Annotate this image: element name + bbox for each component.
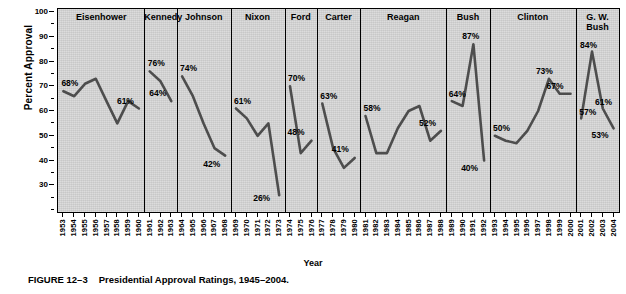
figure-caption-text: Presidential Approval Ratings, 1945–2004…	[99, 274, 289, 285]
x-tick-label: 1955	[80, 219, 89, 237]
figure-container: Percent Approval 10090807060504030 Eisen…	[0, 0, 626, 294]
panel-label-nixon: Nixon	[231, 12, 285, 22]
x-tick-label: 1996	[522, 219, 531, 237]
x-tick-label: 1995	[512, 219, 521, 237]
panel-divider	[177, 9, 178, 212]
x-tick-mark	[526, 213, 527, 217]
y-minor-tick	[51, 98, 54, 99]
panel-label-ford: Ford	[285, 12, 317, 22]
x-tick-label: 1971	[253, 219, 262, 237]
x-tick-label: 1980	[350, 219, 359, 237]
y-minor-tick	[51, 73, 54, 74]
x-tick-mark	[580, 213, 581, 217]
y-axis-ticks: 10090807060504030	[18, 0, 48, 220]
x-tick-label: 1963	[166, 219, 175, 237]
x-tick-label: 1964	[177, 219, 186, 237]
data-value-label: 84%	[580, 40, 597, 50]
x-tick-label: 1989	[447, 219, 456, 237]
approval-line-nixon	[236, 109, 279, 196]
data-value-label: 26%	[253, 193, 270, 203]
panel-divider	[490, 9, 491, 212]
x-tick-label: 1985	[404, 219, 413, 237]
x-tick-label: 1953	[58, 219, 67, 237]
x-tick-label: 1962	[156, 219, 165, 237]
x-tick-label: 1984	[393, 219, 402, 237]
data-value-label: 57%	[579, 107, 596, 117]
x-tick-label: 1966	[199, 219, 208, 237]
x-tick-label: 1979	[339, 219, 348, 237]
y-minor-tick	[51, 209, 54, 210]
x-tick-mark	[213, 213, 214, 217]
x-tick-label: 1991	[468, 219, 477, 237]
x-tick-label: 1986	[414, 219, 423, 237]
data-value-label: 73%	[536, 66, 553, 76]
panel-divider	[360, 9, 361, 212]
data-value-label: 58%	[363, 103, 380, 113]
x-tick-mark	[267, 213, 268, 217]
data-value-label: 64%	[449, 89, 466, 99]
y-minor-tick	[51, 172, 54, 173]
y-tick-mark	[49, 110, 54, 111]
x-tick-mark	[73, 213, 74, 217]
x-tick-mark	[278, 213, 279, 217]
x-tick-mark	[289, 213, 290, 217]
x-tick-mark	[203, 213, 204, 217]
x-tick-mark	[494, 213, 495, 217]
x-tick-label: 1987	[425, 219, 434, 237]
x-tick-mark	[602, 213, 603, 217]
x-tick-mark	[192, 213, 193, 217]
data-value-label: 64%	[149, 88, 166, 98]
x-tick-mark	[516, 213, 517, 217]
x-tick-mark	[386, 213, 387, 217]
x-tick-label: 1997	[533, 219, 542, 237]
panel-label-clinton: Clinton	[490, 12, 576, 22]
x-tick-mark	[235, 213, 236, 217]
y-tick-label: 40	[18, 155, 48, 164]
x-tick-mark	[429, 213, 430, 217]
x-tick-label: 1958	[112, 219, 121, 237]
x-tick-mark	[570, 213, 571, 217]
x-tick-label: 1999	[555, 219, 564, 237]
x-tick-label: 1970	[242, 219, 251, 237]
x-tick-mark	[462, 213, 463, 217]
x-tick-mark	[62, 213, 63, 217]
x-tick-label: 1973	[274, 219, 283, 237]
x-tick-label: 1972	[263, 219, 272, 237]
x-tick-label: 1974	[285, 219, 294, 237]
y-minor-tick	[51, 147, 54, 148]
x-tick-mark	[548, 213, 549, 217]
panel-label-bush: Bush	[446, 12, 489, 22]
panel-label-carter: Carter	[317, 12, 360, 22]
x-tick-mark	[483, 213, 484, 217]
y-tick-label: 50	[18, 130, 48, 139]
x-tick-label: 2000	[566, 219, 575, 237]
x-tick-mark	[84, 213, 85, 217]
x-tick-mark	[95, 213, 96, 217]
data-value-label: 87%	[462, 31, 479, 41]
y-tick-mark	[49, 160, 54, 161]
x-tick-mark	[311, 213, 312, 217]
x-tick-label: 1969	[231, 219, 240, 237]
x-tick-label: 1983	[382, 219, 391, 237]
x-tick-label: 1990	[458, 219, 467, 237]
x-tick-label: 1967	[209, 219, 218, 237]
x-tick-mark	[440, 213, 441, 217]
x-tick-label: 1968	[220, 219, 229, 237]
x-tick-mark	[451, 213, 452, 217]
data-value-label: 67%	[546, 81, 563, 91]
y-minor-tick	[51, 48, 54, 49]
data-value-label: 42%	[203, 159, 220, 169]
x-tick-mark	[332, 213, 333, 217]
x-tick-mark	[321, 213, 322, 217]
panel-label-g-w-bush: G. W. Bush	[576, 12, 619, 32]
x-tick-label: 1978	[328, 219, 337, 237]
y-tick-mark	[49, 61, 54, 62]
data-value-label: 61%	[117, 96, 134, 106]
x-tick-label: 2001	[576, 219, 585, 237]
data-value-label: 41%	[332, 144, 349, 154]
y-tick-label: 90	[18, 31, 48, 40]
x-tick-mark	[365, 213, 366, 217]
y-tick-mark	[49, 36, 54, 37]
panel-label-johnson: Johnson	[177, 12, 231, 22]
y-tick-label: 100	[18, 7, 48, 16]
